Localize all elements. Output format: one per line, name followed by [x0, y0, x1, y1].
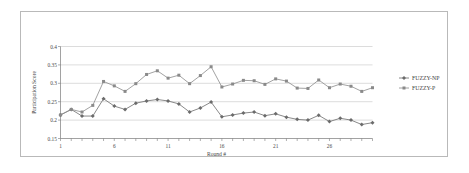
- data-point: [263, 83, 266, 86]
- data-point: [70, 108, 73, 111]
- data-point: [339, 83, 342, 86]
- data-point: [113, 84, 116, 87]
- data-point: [167, 77, 170, 80]
- x-axis-title: Round #: [207, 151, 226, 157]
- data-point: [220, 85, 223, 88]
- data-point: [155, 97, 159, 101]
- x-tick-label: 11: [165, 143, 170, 149]
- data-point: [328, 86, 331, 89]
- data-point: [81, 111, 84, 114]
- data-point: [123, 107, 127, 111]
- data-point: [134, 82, 137, 85]
- y-tick-label: 0.25: [48, 99, 58, 105]
- data-point: [102, 80, 105, 83]
- y-tick-label: 0.3: [50, 80, 57, 86]
- data-point: [166, 99, 170, 103]
- y-tick-label: 0.4: [50, 44, 57, 50]
- series-fuzzy-np[interactable]: [59, 97, 375, 127]
- data-point: [241, 111, 245, 115]
- data-point: [177, 74, 180, 77]
- line-chart[interactable]: 0.40.350.30.250.20.151611162126Round #Pa…: [0, 0, 469, 173]
- data-point: [145, 73, 148, 76]
- data-point: [274, 112, 278, 116]
- data-point: [91, 104, 94, 107]
- data-point: [371, 86, 374, 89]
- data-point: [274, 77, 277, 80]
- data-point: [242, 79, 245, 82]
- data-point: [253, 79, 256, 82]
- y-tick-label: 0.2: [50, 117, 57, 123]
- chart-figure: 0.40.350.30.250.20.151611162126Round #Pa…: [0, 0, 469, 173]
- legend-label[interactable]: FUZZY-P: [412, 85, 435, 91]
- x-tick-label: 21: [273, 143, 279, 149]
- legend-label[interactable]: FUZZY-NP: [412, 75, 439, 81]
- data-point: [360, 90, 363, 93]
- data-point: [349, 85, 352, 88]
- data-point: [59, 113, 62, 116]
- series-line: [61, 99, 373, 125]
- data-point: [360, 123, 364, 127]
- data-point: [145, 99, 149, 103]
- data-point: [371, 121, 375, 125]
- x-tick-label: 6: [113, 143, 116, 149]
- data-point: [317, 78, 320, 81]
- legend-marker: [403, 87, 406, 90]
- data-point: [80, 114, 84, 118]
- data-point: [317, 113, 321, 117]
- series-line: [61, 67, 373, 115]
- data-point: [295, 117, 299, 121]
- data-point: [338, 116, 342, 120]
- data-point: [198, 106, 202, 110]
- data-point: [296, 87, 299, 90]
- data-point: [285, 80, 288, 83]
- data-point: [306, 87, 309, 90]
- legend-marker: [402, 76, 406, 80]
- x-tick-label: 16: [219, 143, 225, 149]
- data-point: [306, 118, 310, 122]
- x-tick-label: 1: [59, 143, 62, 149]
- data-point: [252, 110, 256, 114]
- data-point: [263, 114, 267, 118]
- data-point: [124, 90, 127, 93]
- data-point: [210, 65, 213, 68]
- data-point: [349, 118, 353, 122]
- data-point: [188, 82, 191, 85]
- x-tick-label: 26: [327, 143, 333, 149]
- y-axis-title: Participation Score: [31, 71, 37, 114]
- data-point: [284, 115, 288, 119]
- data-point: [231, 113, 235, 117]
- data-point: [199, 74, 202, 77]
- data-point: [91, 114, 95, 118]
- data-point: [156, 69, 159, 72]
- y-tick-label: 0.35: [48, 62, 58, 68]
- y-tick-label: 0.15: [48, 136, 58, 142]
- data-point: [231, 83, 234, 86]
